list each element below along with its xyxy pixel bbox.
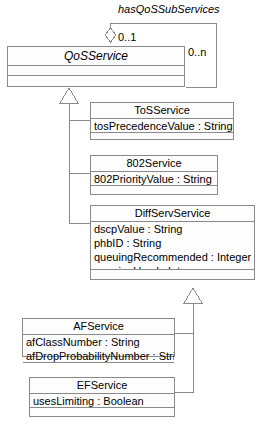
attribute-row: tosPrecedenceValue : String bbox=[94, 119, 233, 133]
class-name-afservice: AFService bbox=[23, 319, 174, 335]
attribute-row: dscpValue : String bbox=[94, 222, 254, 236]
class-name-diffservservice: DiffServService bbox=[91, 206, 254, 222]
class-name-802service: 802Service bbox=[91, 156, 217, 172]
generalization-tree-qosservice bbox=[60, 88, 90, 224]
attribute-row: phbID : String bbox=[94, 236, 254, 250]
generalization-triangle-qosservice bbox=[60, 88, 78, 103]
attribute-row: afClassNumber : String bbox=[26, 335, 174, 349]
class-operations-afservice bbox=[23, 363, 174, 370]
class-attributes-efservice: usesLimiting : Boolean bbox=[30, 394, 174, 408]
association-target-multiplicity: 0..n bbox=[188, 46, 206, 59]
class-box-qosservice[interactable]: QoSService bbox=[7, 46, 185, 87]
association-name-label: hasQoSSubServices bbox=[118, 3, 220, 16]
class-attributes-afservice: afClassNumber : String afDropProbability… bbox=[23, 335, 174, 363]
class-box-diffservservice[interactable]: DiffServService dscpValue : String phbID… bbox=[90, 205, 255, 280]
class-operations-diffservservice bbox=[91, 270, 254, 279]
association-source-multiplicity: 0..1 bbox=[118, 31, 136, 44]
attribute-row: queuingRecommended : Integer bbox=[94, 250, 254, 264]
class-box-efservice[interactable]: EFService usesLimiting : Boolean bbox=[29, 377, 175, 417]
class-operations-tosservice bbox=[91, 133, 233, 139]
class-name-efservice: EFService bbox=[30, 378, 174, 394]
class-box-802service[interactable]: 802Service 802PriorityValue : String bbox=[90, 155, 218, 195]
generalization-triangle-diffservservice bbox=[184, 288, 202, 303]
aggregation-diamond bbox=[105, 28, 116, 42]
class-box-tosservice[interactable]: ToSService tosPrecedenceValue : String bbox=[90, 102, 234, 140]
class-operations-efservice bbox=[30, 408, 174, 416]
generalization-tree-diffservservice bbox=[175, 288, 202, 393]
class-attributes-diffservservice: dscpValue : String phbID : String queuin… bbox=[91, 222, 254, 270]
uml-class-diagram-canvas: hasQoSSubServices 0..1 0..n QoSService T… bbox=[0, 0, 259, 424]
class-operations-802service bbox=[91, 186, 217, 194]
class-attributes-tosservice: tosPrecedenceValue : String bbox=[91, 119, 233, 133]
class-attributes-qosservice bbox=[8, 66, 184, 76]
attribute-row: afDropProbabilityNumber : String bbox=[26, 349, 174, 363]
class-name-qosservice: QoSService bbox=[8, 47, 184, 66]
class-name-tosservice: ToSService bbox=[91, 103, 233, 119]
class-box-afservice[interactable]: AFService afClassNumber : String afDropP… bbox=[22, 318, 175, 357]
attribute-row: 802PriorityValue : String bbox=[94, 172, 217, 186]
class-attributes-802service: 802PriorityValue : String bbox=[91, 172, 217, 186]
attribute-row: usesLimiting : Boolean bbox=[33, 394, 174, 408]
class-operations-qosservice bbox=[8, 76, 184, 86]
